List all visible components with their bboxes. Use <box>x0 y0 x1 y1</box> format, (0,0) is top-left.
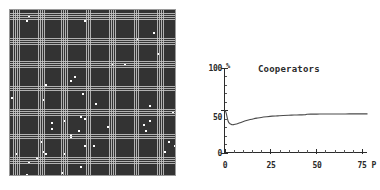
y-tick-label-0: 0 <box>217 149 222 158</box>
x-axis-name-label: P <box>372 161 377 170</box>
chart-title: Cooperators <box>258 64 320 74</box>
cooperators-line-chart: Cooperators % 100 50 0 0 25 50 75 P <box>190 0 380 190</box>
x-tick-label-25: 25 <box>266 161 276 170</box>
y-tick-label-50: 50 <box>213 113 223 122</box>
lattice-panel <box>0 0 190 190</box>
cooperators-data-curve <box>225 110 368 124</box>
y-tick-label-100: 100 <box>208 64 222 73</box>
spatial-lattice-grid <box>9 9 176 176</box>
x-tick-label-50: 50 <box>312 161 322 170</box>
x-tick-label-0: 0 <box>223 161 228 170</box>
cooperators-chart-panel: Cooperators % 100 50 0 0 25 50 75 P <box>190 0 380 190</box>
x-tick-label-75: 75 <box>357 161 367 170</box>
